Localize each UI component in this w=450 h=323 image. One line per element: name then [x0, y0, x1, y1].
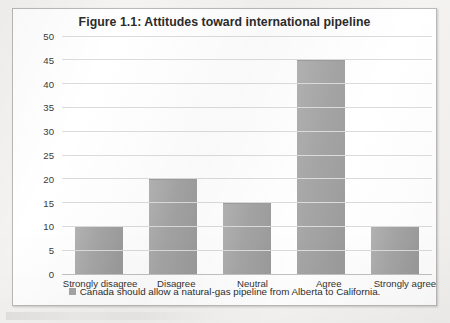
y-axis-tick-label: 5 [49, 245, 54, 256]
y-axis-tick-label: 15 [43, 197, 54, 208]
bar [223, 203, 271, 274]
chart-container: Figure 1.1: Attitudes toward internation… [12, 8, 437, 306]
y-axis-tick-label: 0 [49, 269, 54, 280]
gridline [62, 250, 432, 251]
y-axis-tick-label: 20 [43, 173, 54, 184]
y-axis-tick-label: 40 [43, 78, 54, 89]
gridline [62, 226, 432, 227]
plot-area: 50454035302520151050 [32, 36, 432, 274]
gridline [62, 155, 432, 156]
gridline [62, 131, 432, 132]
gridline [62, 202, 432, 203]
gridline [62, 107, 432, 108]
legend-swatch-icon [69, 288, 76, 295]
chart-legend: Canada should allow a natural-gas pipeli… [13, 286, 436, 297]
gridline [62, 36, 432, 37]
y-axis-tick-label: 10 [43, 221, 54, 232]
legend-label: Canada should allow a natural-gas pipeli… [80, 286, 381, 297]
bar [297, 60, 345, 274]
gridline [62, 178, 432, 179]
gridline [62, 83, 432, 84]
x-axis-line [62, 274, 432, 275]
y-axis: 50454035302520151050 [32, 36, 58, 274]
y-axis-tick-label: 30 [43, 126, 54, 137]
plot-canvas [62, 36, 432, 274]
gridline [62, 59, 432, 60]
chart-title: Figure 1.1: Attitudes toward internation… [13, 15, 436, 29]
y-axis-tick-label: 25 [43, 150, 54, 161]
y-axis-tick-label: 35 [43, 102, 54, 113]
scan-artifact [6, 312, 216, 320]
y-axis-tick-label: 45 [43, 54, 54, 65]
y-axis-tick-label: 50 [43, 31, 54, 42]
